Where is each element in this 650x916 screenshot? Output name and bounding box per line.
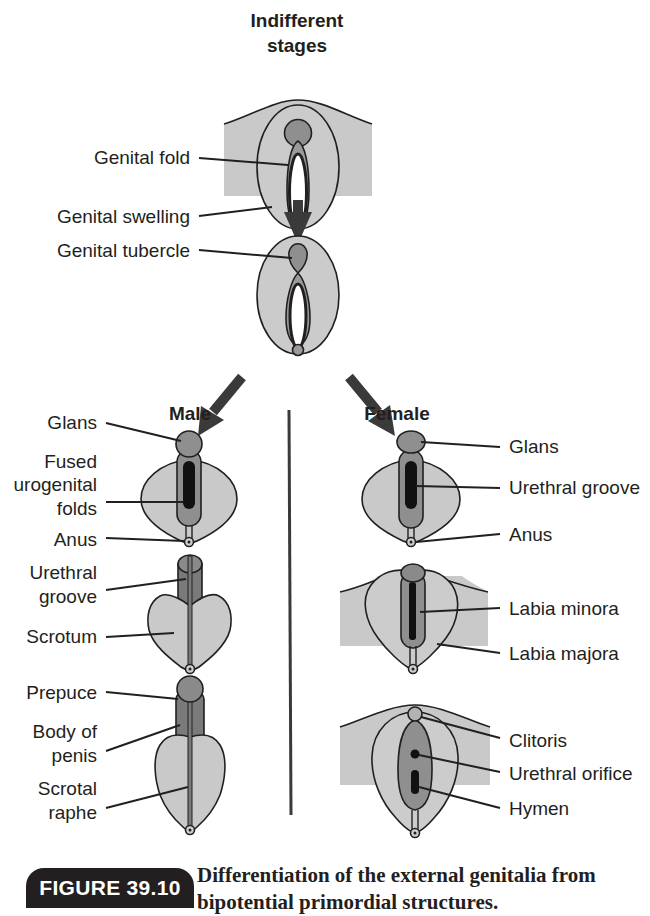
label-genital-swelling: Genital swelling bbox=[57, 206, 190, 227]
label-anus-female: Anus bbox=[509, 524, 552, 545]
label-hymen: Hymen bbox=[509, 798, 569, 819]
center-divider bbox=[289, 410, 291, 815]
label-raphe: raphe bbox=[48, 802, 97, 823]
male-stage-2-figure bbox=[148, 555, 231, 674]
label-urethral-orifice: Urethral orifice bbox=[509, 763, 633, 784]
figure-caption: Differentiation of the external genitali… bbox=[197, 862, 637, 916]
label-glans: Glans bbox=[47, 412, 97, 433]
male-stage-3-figure bbox=[155, 676, 225, 835]
label-labia-minora: Labia minora bbox=[509, 598, 619, 619]
label-glans-female: Glans bbox=[509, 436, 559, 457]
svg-text:Indifferent: Indifferent bbox=[251, 10, 345, 31]
label-prepuce: Prepuce bbox=[26, 682, 97, 703]
label-fused: Fused bbox=[44, 451, 97, 472]
label-urogenital: urogenital bbox=[14, 474, 97, 495]
male-stage-1-figure bbox=[141, 431, 237, 547]
svg-text:stages: stages bbox=[267, 35, 327, 56]
figure-number-badge: FIGURE 39.10 bbox=[26, 868, 194, 908]
female-heading: Female bbox=[364, 403, 429, 424]
female-stage-1-figure bbox=[362, 431, 460, 547]
male-heading: Male bbox=[169, 403, 211, 424]
label-genital-tubercle: Genital tubercle bbox=[57, 240, 190, 261]
label-groove: groove bbox=[39, 586, 97, 607]
indifferent-stage-2-labels: Genital tubercle bbox=[57, 240, 292, 261]
label-urethral-groove: Urethral groove bbox=[509, 477, 640, 498]
label-penis: penis bbox=[52, 745, 97, 766]
female-stage-2-figure bbox=[340, 564, 488, 674]
label-anus-male: Anus bbox=[54, 529, 97, 550]
label-genital-fold: Genital fold bbox=[94, 147, 190, 168]
label-urethral: Urethral bbox=[29, 562, 97, 583]
label-scrotum: Scrotum bbox=[26, 626, 97, 647]
label-body-of: Body of bbox=[33, 721, 98, 742]
female-stage-3-figure bbox=[340, 705, 490, 838]
label-labia-majora: Labia majora bbox=[509, 643, 619, 664]
indifferent-stages-heading: Indifferent stages bbox=[251, 10, 345, 56]
label-scrotal: Scrotal bbox=[38, 778, 97, 799]
indifferent-stage-2-figure bbox=[257, 236, 339, 356]
label-clitoris: Clitoris bbox=[509, 730, 567, 751]
label-folds: folds bbox=[57, 498, 97, 519]
